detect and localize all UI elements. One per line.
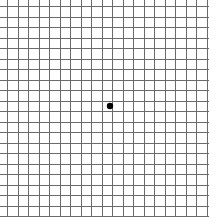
amsler-grid [0, 0, 209, 217]
grid-background [0, 0, 209, 217]
center-fixation-dot [107, 103, 113, 109]
